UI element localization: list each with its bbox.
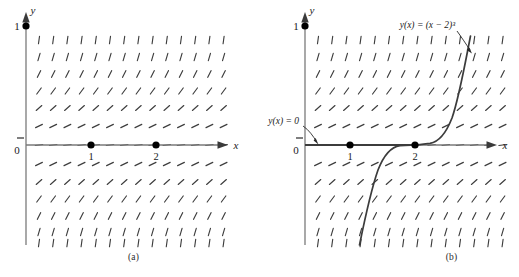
slope-segment — [81, 36, 82, 43]
slope-segment — [502, 36, 503, 43]
slope-segment — [502, 239, 503, 246]
slope-segment — [66, 71, 69, 78]
slope-segment — [93, 180, 99, 185]
figure-slope-field: y x 1 0 1 2 (a) — [0, 0, 519, 277]
slope-segment — [372, 106, 378, 111]
point-label-2-b: 2 — [412, 151, 417, 162]
slope-field-b — [314, 36, 506, 246]
slope-segment — [458, 213, 461, 220]
slope-segment — [52, 71, 55, 78]
slope-segment — [332, 239, 333, 246]
panel-b-plot: y x 1 0 1 2 y(x) = 0 y(x) = (x − 2)³ — [259, 0, 519, 277]
slope-segment — [487, 228, 489, 235]
slope-segment — [52, 213, 55, 220]
slope-segment — [388, 228, 390, 235]
slope-segment — [108, 213, 111, 220]
slope-segment — [331, 71, 334, 78]
origin-label-b: 0 — [293, 144, 299, 156]
slope-segment — [357, 162, 364, 165]
slope-segment — [487, 213, 490, 220]
slope-segment — [400, 162, 407, 165]
slope-segment — [194, 213, 197, 220]
slope-segment — [346, 239, 347, 246]
slope-segment — [195, 239, 196, 246]
slope-segment — [500, 106, 506, 111]
slope-segment — [486, 88, 490, 94]
slope-field-a — [35, 36, 227, 246]
slope-segment — [37, 71, 40, 78]
slope-segment — [51, 196, 55, 202]
slope-segment — [445, 239, 446, 246]
slope-segment — [329, 162, 336, 165]
slope-segment — [222, 71, 225, 78]
slope-segment — [67, 36, 68, 43]
slope-segment — [121, 106, 127, 111]
slope-segment — [78, 124, 85, 127]
slope-segment — [67, 239, 68, 246]
slope-segment — [163, 162, 170, 165]
slope-segment — [51, 88, 55, 94]
slope-segment — [79, 180, 85, 185]
slope-segment — [221, 180, 227, 185]
slope-segment — [207, 180, 213, 185]
slope-segment — [459, 228, 461, 235]
slope-segment — [431, 36, 432, 43]
slope-segment — [136, 106, 142, 111]
slope-segment — [152, 228, 154, 235]
slope-segment — [36, 124, 43, 127]
slope-segment — [471, 124, 478, 127]
slope-segment — [94, 196, 98, 202]
slope-segment — [65, 106, 71, 111]
slope-segment — [471, 106, 477, 111]
slope-segment — [151, 213, 154, 220]
slope-segment — [165, 213, 168, 220]
slope-segment — [66, 228, 68, 235]
slope-segment — [220, 124, 227, 127]
slope-segment — [374, 53, 376, 60]
slope-segment — [37, 196, 41, 202]
slope-segment — [78, 162, 85, 165]
slope-segment — [444, 71, 447, 78]
slope-segment — [180, 36, 181, 43]
slope-segment — [178, 124, 185, 127]
slope-segment — [124, 239, 125, 246]
slope-segment — [107, 124, 114, 127]
slope-segment — [223, 36, 224, 43]
slope-segment — [107, 106, 113, 111]
slope-segment — [442, 162, 449, 165]
slope-segment — [331, 228, 333, 235]
y-axis-label-b: y — [309, 4, 315, 16]
slope-segment — [53, 36, 54, 43]
slope-segment — [179, 213, 182, 220]
slope-segment — [345, 213, 348, 220]
slope-segment — [502, 53, 504, 60]
slope-segment — [108, 71, 111, 78]
slope-segment — [208, 228, 210, 235]
y-one-point-b — [301, 22, 308, 29]
slope-segment — [444, 213, 447, 220]
panel-a-plot: y x 1 0 1 2 — [0, 0, 259, 277]
slope-segment — [192, 106, 198, 111]
slope-segment — [178, 180, 184, 185]
slope-segment — [192, 180, 198, 185]
slope-segment — [429, 88, 433, 94]
slope-segment — [488, 36, 489, 43]
panel-b-caption: (b) — [259, 252, 519, 262]
slope-segment — [400, 124, 407, 127]
slope-segment — [180, 53, 182, 60]
zero-solution-label: y(x) = 0 — [267, 116, 299, 127]
slope-segment — [64, 124, 71, 127]
slope-segment — [207, 106, 213, 111]
slope-segment — [108, 88, 112, 94]
slope-segment — [414, 162, 421, 165]
slope-segment — [473, 71, 476, 78]
slope-segment — [316, 88, 320, 94]
slope-segment — [122, 196, 126, 202]
slope-segment — [152, 36, 153, 43]
slope-segment — [443, 106, 449, 111]
slope-segment — [374, 36, 375, 43]
slope-segment — [149, 124, 156, 127]
slope-segment — [94, 71, 97, 78]
slope-segment — [123, 53, 125, 60]
slope-segment — [166, 239, 167, 246]
